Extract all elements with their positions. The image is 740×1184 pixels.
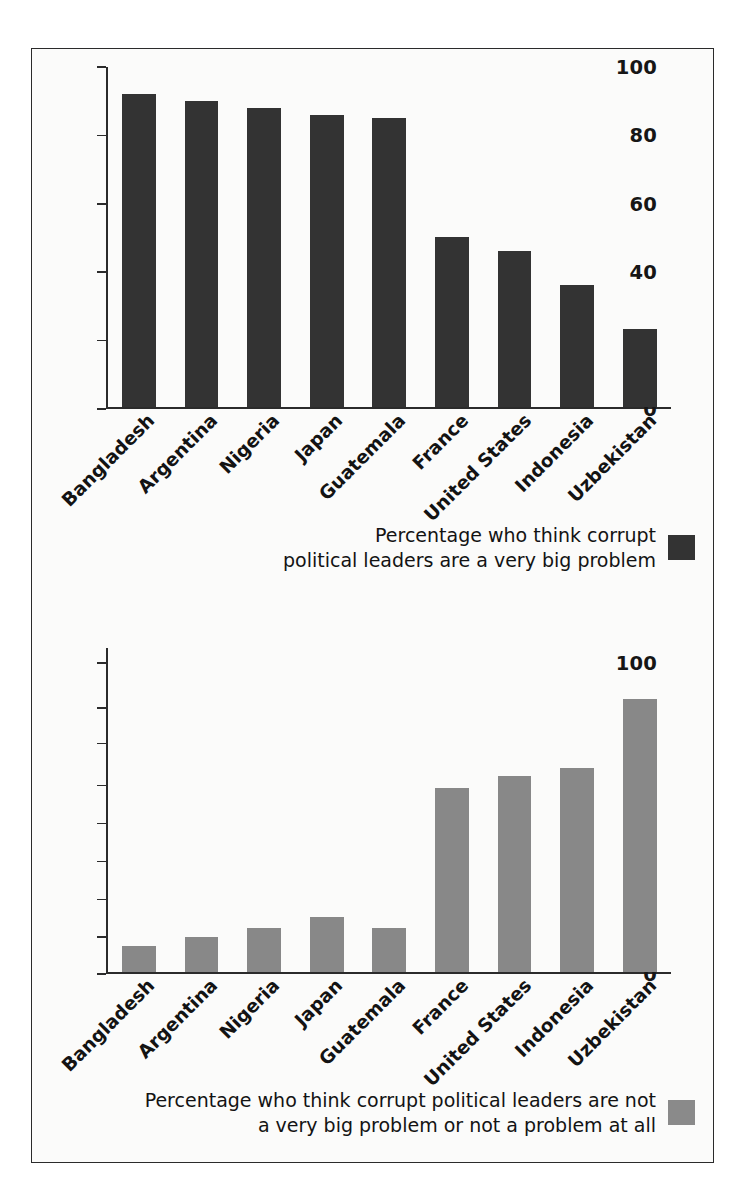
y-tick-bottom-100 — [97, 662, 106, 664]
y-tick-bottom-0 — [97, 973, 106, 975]
bar-bangladesh[interactable] — [122, 94, 156, 407]
bar-slot — [108, 648, 171, 972]
y-tick-top-100 — [97, 66, 106, 68]
chart-panel-top: 020406080100 BangladeshArgentinaNigeriaJ… — [32, 49, 715, 597]
legend-swatch-dark — [668, 535, 695, 560]
bar-bangladesh[interactable] — [122, 946, 156, 972]
bar-argentina[interactable] — [185, 937, 219, 972]
plot-area-top: 020406080100 — [106, 67, 671, 409]
legend-label-top: Percentage who think corrupt political l… — [283, 523, 656, 572]
bar-slot — [295, 67, 358, 407]
bar-slot — [233, 648, 296, 972]
figure-frame: 020406080100 BangladeshArgentinaNigeriaJ… — [31, 48, 714, 1163]
bar-slot — [608, 648, 671, 972]
bar-france[interactable] — [435, 788, 469, 972]
y-tick-top-80 — [97, 135, 106, 137]
bar-slot — [608, 67, 671, 407]
bar-slot — [233, 67, 296, 407]
bar-argentina[interactable] — [185, 101, 219, 407]
x-axis-top — [106, 407, 671, 409]
bar-slot — [295, 648, 358, 972]
y-tick-bottom-60 — [97, 743, 106, 745]
y-tick-bottom-10 — [97, 936, 106, 938]
x-label-nigeria: Nigeria — [217, 411, 284, 478]
x-label-bangladesh: Bangladesh — [59, 976, 158, 1075]
y-tick-top-40 — [97, 271, 106, 273]
y-tick-top-20 — [97, 340, 106, 342]
y-tick-bottom-40 — [97, 823, 106, 825]
x-label-japan: Japan — [292, 411, 346, 465]
bar-slot — [170, 67, 233, 407]
x-label-france: France — [409, 411, 471, 473]
bar-united-states[interactable] — [498, 251, 532, 407]
chart-panel-bottom: 010203040506080100 BangladeshArgentinaNi… — [32, 602, 715, 1164]
legend-top: Percentage who think corrupt political l… — [32, 523, 695, 572]
bar-indonesia[interactable] — [560, 768, 594, 972]
bar-nigeria[interactable] — [247, 928, 281, 972]
bar-slot — [483, 648, 546, 972]
bar-slot — [546, 67, 609, 407]
bar-slot — [483, 67, 546, 407]
bar-indonesia[interactable] — [560, 285, 594, 407]
bar-france[interactable] — [435, 237, 469, 407]
bar-uzbekistan[interactable] — [623, 699, 657, 972]
x-axis-labels-bottom: BangladeshArgentinaNigeriaJapanGuatemala… — [106, 976, 671, 1096]
bar-slot — [421, 648, 484, 972]
bar-nigeria[interactable] — [247, 108, 281, 407]
x-label-france: France — [409, 976, 471, 1038]
x-axis-bottom — [106, 972, 671, 974]
bar-group-bottom — [108, 648, 671, 972]
bar-slot — [421, 67, 484, 407]
bar-japan[interactable] — [310, 115, 344, 408]
bar-slot — [108, 67, 171, 407]
bar-guatemala[interactable] — [372, 928, 406, 972]
y-tick-bottom-50 — [97, 785, 106, 787]
x-label-bangladesh: Bangladesh — [59, 411, 158, 510]
y-tick-top-60 — [97, 203, 106, 205]
y-tick-top-0 — [97, 408, 106, 410]
bar-slot — [358, 648, 421, 972]
y-tick-bottom-30 — [97, 861, 106, 863]
bar-slot — [546, 648, 609, 972]
x-label-japan: Japan — [292, 976, 346, 1030]
legend-swatch-gray — [668, 1100, 695, 1125]
bar-slot — [358, 67, 421, 407]
plot-area-bottom: 010203040506080100 — [106, 648, 671, 974]
legend-label-bottom: Percentage who think corrupt political l… — [145, 1088, 656, 1137]
bar-guatemala[interactable] — [372, 118, 406, 407]
bar-group-top — [108, 67, 671, 407]
x-label-nigeria: Nigeria — [217, 976, 284, 1043]
bar-slot — [170, 648, 233, 972]
bar-japan[interactable] — [310, 917, 344, 972]
legend-bottom: Percentage who think corrupt political l… — [52, 1088, 695, 1137]
bar-united-states[interactable] — [498, 776, 532, 972]
y-tick-bottom-20 — [97, 899, 106, 901]
y-tick-bottom-80 — [97, 707, 106, 709]
bar-uzbekistan[interactable] — [623, 329, 657, 407]
x-axis-labels-top: BangladeshArgentinaNigeriaJapanGuatemala… — [106, 411, 671, 531]
